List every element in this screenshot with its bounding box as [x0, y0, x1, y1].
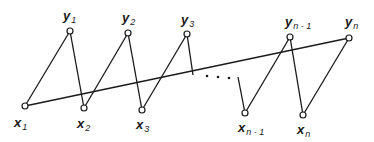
vertex-x1	[22, 103, 28, 109]
partial-edge	[187, 34, 193, 75]
label-x1: x1	[13, 115, 27, 132]
label-xn: xn	[296, 122, 310, 139]
vertex-yn1	[287, 34, 293, 40]
vertex-y3	[184, 31, 190, 37]
edge-x2-y2	[84, 33, 128, 108]
partial-edge	[238, 77, 245, 113]
label-yn1: yn - 1	[284, 14, 311, 31]
label-y2: y2	[121, 10, 135, 27]
partial-edges	[187, 34, 245, 113]
vertex-xn	[300, 112, 306, 118]
graph-svg: x1y1x2y2x3y3xn - 1yn - 1xnyn	[0, 0, 374, 142]
ellipsis-dot	[206, 75, 209, 78]
label-y3: y3	[180, 12, 194, 29]
vertex-x3	[139, 107, 145, 113]
edge-xn1-yn1	[245, 37, 290, 113]
vertex-xn1	[242, 110, 248, 116]
vertex-x2	[81, 105, 87, 111]
edges	[25, 31, 349, 115]
ellipsis-dots	[206, 75, 231, 80]
label-yn: yn	[344, 14, 358, 31]
label-x3: x3	[135, 117, 149, 134]
vertex-yn	[346, 35, 352, 41]
ellipsis-dot	[217, 76, 220, 79]
vertex-labels: x1y1x2y2x3y3xn - 1yn - 1xnyn	[13, 8, 358, 139]
edge-xn-yn	[303, 38, 349, 115]
label-xn1: xn - 1	[237, 120, 264, 137]
label-y1: y1	[62, 8, 76, 25]
vertex-y2	[125, 30, 131, 36]
ellipsis-dot	[228, 77, 231, 80]
label-x2: x2	[76, 116, 90, 133]
zigzag-graph-diagram: x1y1x2y2x3y3xn - 1yn - 1xnyn	[0, 0, 374, 142]
edge-x3-y3	[142, 34, 187, 110]
vertex-y1	[67, 28, 73, 34]
edge-x1-y1	[25, 31, 70, 106]
edge-y2-x3	[128, 33, 142, 110]
